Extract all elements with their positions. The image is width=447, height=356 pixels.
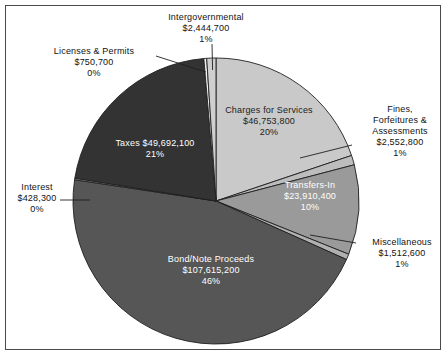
- label-taxes-name-value: Taxes $49,692,100: [85, 138, 225, 149]
- label-transfers-in-value: $23,910,400: [258, 191, 362, 202]
- label-licenses-permits-value: $750,700: [18, 57, 170, 68]
- slice-taxes[interactable]: [75, 59, 216, 201]
- label-interest-value: $428,300: [2, 193, 72, 204]
- label-transfers-in-name: Transfers-In: [258, 180, 362, 191]
- label-charges-value: $46,753,800: [196, 116, 342, 127]
- label-intergovernmental-percent: 1%: [126, 34, 286, 45]
- label-fines-line3: Assessments: [356, 126, 444, 137]
- label-charges-name: Charges for Services: [196, 105, 342, 116]
- label-bond-value: $107,615,200: [136, 265, 286, 276]
- label-bond-note-proceeds: Bond/Note Proceeds $107,615,200 46%: [136, 254, 286, 287]
- label-fines-line2: Forfeitures &: [356, 115, 444, 126]
- label-interest-name: Interest: [2, 182, 72, 193]
- label-charges-for-services: Charges for Services $46,753,800 20%: [196, 105, 342, 138]
- label-transfers-in: Transfers-In $23,910,400 10%: [258, 180, 362, 213]
- leader-line-intergovernmental: [212, 44, 213, 70]
- label-intergovernmental: Intergovernmental $2,444,700 1%: [126, 12, 286, 45]
- label-interest-percent: 0%: [2, 204, 72, 215]
- label-taxes: Taxes $49,692,100 21%: [85, 138, 225, 160]
- label-charges-percent: 20%: [196, 127, 342, 138]
- label-transfers-in-percent: 10%: [258, 202, 362, 213]
- label-licenses-permits: Licenses & Permits $750,700 0%: [18, 46, 170, 79]
- label-fines-value: $2,552,800: [356, 137, 444, 148]
- label-miscellaneous: Miscellaneous $1,512,600 1%: [358, 237, 446, 270]
- label-miscellaneous-name: Miscellaneous: [358, 237, 446, 248]
- label-taxes-percent: 21%: [85, 149, 225, 160]
- label-miscellaneous-percent: 1%: [358, 259, 446, 270]
- pie-chart: Intergovernmental $2,444,700 1% Licenses…: [0, 0, 447, 356]
- label-fines-line1: Fines,: [356, 104, 444, 115]
- label-interest: Interest $428,300 0%: [2, 182, 72, 215]
- label-fines-forfeitures-assessments: Fines, Forfeitures & Assessments $2,552,…: [356, 104, 444, 159]
- label-licenses-permits-percent: 0%: [18, 68, 170, 79]
- label-intergovernmental-name: Intergovernmental: [126, 12, 286, 23]
- label-bond-percent: 46%: [136, 276, 286, 287]
- label-licenses-permits-name: Licenses & Permits: [18, 46, 170, 57]
- label-fines-percent: 1%: [356, 148, 444, 159]
- label-miscellaneous-value: $1,512,600: [358, 248, 446, 259]
- label-intergovernmental-value: $2,444,700: [126, 23, 286, 34]
- label-bond-name: Bond/Note Proceeds: [136, 254, 286, 265]
